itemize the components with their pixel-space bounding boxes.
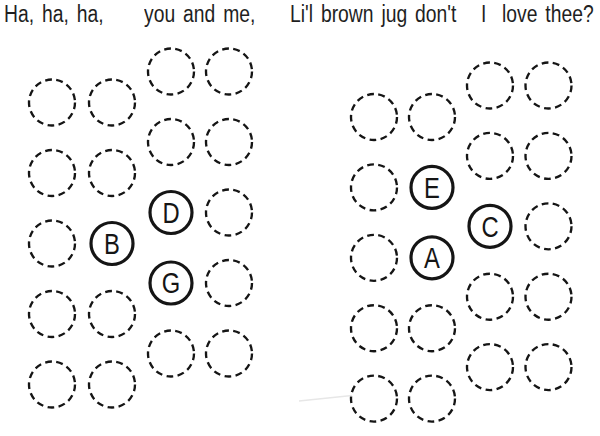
empty-note-circle (29, 362, 75, 408)
note-letter: E (424, 171, 440, 204)
note-g: G (150, 262, 192, 304)
empty-note-circle (29, 80, 75, 126)
empty-note-circle (29, 291, 75, 337)
note-d: D (150, 192, 192, 234)
empty-note-circle (206, 260, 252, 306)
note-letter: D (162, 197, 179, 230)
empty-note-circle (467, 344, 513, 390)
empty-note-circle (467, 63, 513, 109)
empty-note-circle (29, 221, 75, 267)
empty-note-circle (409, 94, 455, 140)
empty-note-circle (351, 94, 397, 140)
empty-note-circle (409, 305, 455, 351)
empty-note-circle (89, 150, 135, 196)
empty-note-circle (89, 362, 135, 408)
bell-grids-canvas: BDGEAC (0, 0, 600, 436)
empty-note-circle (148, 119, 194, 165)
note-letter: A (424, 242, 440, 275)
note-e: E (411, 166, 453, 208)
empty-note-circle (206, 119, 252, 165)
empty-note-circle (351, 305, 397, 351)
empty-note-circle (526, 344, 572, 390)
note-letter: C (481, 210, 498, 243)
empty-note-circle (29, 150, 75, 196)
bell-chart-worksheet: Ha, ha, ha,you and me,Li'l brown jug don… (0, 0, 600, 436)
empty-note-circle (351, 235, 397, 281)
note-b: B (91, 223, 133, 265)
empty-note-circle (351, 376, 397, 422)
note-a: A (411, 237, 453, 279)
empty-note-circle (89, 291, 135, 337)
empty-note-circle (526, 203, 572, 249)
empty-note-circle (526, 133, 572, 179)
empty-note-circle (206, 331, 252, 377)
note-c: C (469, 205, 511, 247)
empty-note-circle (148, 331, 194, 377)
empty-note-circle (526, 274, 572, 320)
note-letter: G (162, 267, 180, 300)
empty-note-circle (467, 133, 513, 179)
empty-note-circle (206, 49, 252, 95)
empty-note-circle (351, 164, 397, 210)
empty-note-circle (89, 80, 135, 126)
empty-note-circle (526, 63, 572, 109)
empty-note-circle (148, 49, 194, 95)
scan-artifact-line (299, 396, 352, 402)
empty-note-circle (409, 376, 455, 422)
right-grid: EAC (351, 63, 572, 422)
empty-note-circle (206, 190, 252, 236)
empty-note-circle (467, 274, 513, 320)
note-letter: B (104, 228, 120, 261)
left-grid: BDG (29, 49, 252, 408)
